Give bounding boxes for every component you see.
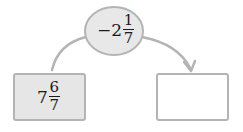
operator-whole: 2 <box>111 20 122 40</box>
operator-denominator: 7 <box>124 31 134 46</box>
operator-numerator: 1 <box>124 13 134 28</box>
input-fraction: 6 7 <box>49 80 60 113</box>
input-numerator: 6 <box>50 80 60 95</box>
operator-sign: − <box>97 20 111 40</box>
input-value: 7 6 7 <box>37 80 60 113</box>
operator-label: − 2 1 7 <box>97 13 134 46</box>
operator-fraction: 1 7 <box>123 13 134 46</box>
input-denominator: 7 <box>50 98 60 113</box>
input-whole: 7 <box>37 87 48 107</box>
arc-right <box>142 37 190 68</box>
output-value[interactable] <box>160 80 225 116</box>
arc-left <box>52 37 86 70</box>
